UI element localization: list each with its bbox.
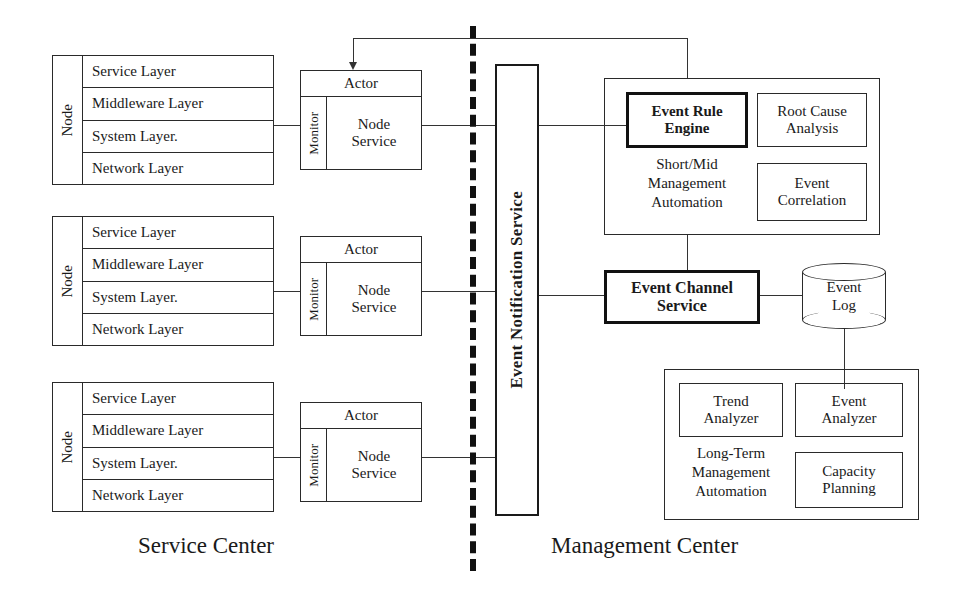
actor-block-1: Actor Monitor Node Service	[300, 70, 422, 170]
actor-block-2: Actor Monitor Node Service	[300, 236, 422, 336]
capacity-planning-box: Capacity Planning	[795, 452, 903, 508]
event-log-line1: Event	[827, 279, 862, 295]
event-correlation-box: Event Correlation	[757, 163, 867, 221]
diagram-canvas: Node Service Layer Middleware Layer Syst…	[0, 0, 961, 594]
connector-node1-actor1	[274, 125, 300, 126]
connector-eventchannel-eventlog	[760, 295, 802, 296]
event-log-line2: Log	[832, 297, 856, 313]
center-divider	[470, 26, 476, 571]
event-correlation-line2: Correlation	[778, 192, 846, 208]
short-mid-automation-line3: Automation	[651, 194, 723, 210]
node-service-line2: Service	[352, 299, 397, 315]
node-block-3: Node Service Layer Middleware Layer Syst…	[52, 382, 274, 512]
connector-container-eventruleengine	[604, 125, 626, 126]
node-layer-row: Service Layer	[83, 217, 273, 249]
root-cause-analysis-line2: Analysis	[786, 120, 839, 136]
connector-node3-actor3	[274, 457, 300, 458]
monitor-cell-3: Monitor	[301, 429, 327, 501]
node-layer-row: Middleware Layer	[83, 415, 273, 447]
event-rule-engine-line1: Event Rule	[651, 103, 722, 119]
connector-node2-actor2	[274, 291, 300, 292]
monitor-label-3: Monitor	[306, 444, 322, 487]
node-label-tab-3: Node	[53, 383, 83, 511]
root-cause-analysis-box: Root Cause Analysis	[757, 93, 867, 147]
node-service-cell-3: Node Service	[327, 429, 421, 501]
node-block-2: Node Service Layer Middleware Layer Syst…	[52, 216, 274, 346]
node-layer-row: System Layer.	[83, 121, 273, 153]
node-service-line1: Node	[358, 116, 391, 132]
node-service-line1: Node	[358, 448, 391, 464]
node-layer-row: Network Layer	[83, 480, 273, 511]
node-layer-row: Service Layer	[83, 56, 273, 88]
feedback-drop-right	[687, 38, 688, 78]
feedback-horizontal	[353, 38, 687, 39]
node-label-tab-2: Node	[53, 217, 83, 345]
short-mid-automation-line1: Short/Mid	[656, 156, 718, 172]
node-layer-row: Network Layer	[83, 153, 273, 184]
actor-header-3: Actor	[301, 403, 421, 429]
node-block-1: Node Service Layer Middleware Layer Syst…	[52, 55, 274, 185]
event-analyzer-line2: Analyzer	[822, 410, 877, 426]
connector-actor1-ens	[422, 125, 495, 126]
node-label-tab-1: Node	[53, 56, 83, 184]
node-service-cell-1: Node Service	[327, 97, 421, 169]
long-term-automation-line2: Management	[692, 464, 770, 480]
short-mid-automation-line2: Management	[648, 175, 726, 191]
trend-analyzer-box: Trend Analyzer	[679, 383, 783, 437]
node-layer-row: Service Layer	[83, 383, 273, 415]
event-channel-service-line1: Event Channel	[631, 279, 733, 296]
monitor-label-1: Monitor	[306, 112, 322, 155]
actor-block-3: Actor Monitor Node Service	[300, 402, 422, 502]
trend-analyzer-line1: Trend	[713, 393, 748, 409]
node-label-3: Node	[59, 431, 76, 464]
monitor-cell-1: Monitor	[301, 97, 327, 169]
connector-shortmid-eventchannel	[687, 235, 688, 270]
event-log-label: Event Log	[802, 263, 886, 329]
long-term-automation-line1: Long-Term	[697, 445, 765, 461]
connector-ens-shortmid	[539, 125, 604, 126]
trend-analyzer-line2: Analyzer	[704, 410, 759, 426]
node-label-1: Node	[59, 104, 76, 137]
connector-actor3-ens	[422, 457, 495, 458]
capacity-planning-line1: Capacity	[822, 463, 875, 479]
event-analyzer-line1: Event	[832, 393, 867, 409]
event-log-cylinder: Event Log	[802, 263, 886, 329]
event-rule-engine-box: Event Rule Engine	[626, 92, 748, 148]
node-service-line1: Node	[358, 282, 391, 298]
feedback-drop-actor	[353, 38, 354, 62]
actor-header-1: Actor	[301, 71, 421, 97]
node-service-line2: Service	[352, 465, 397, 481]
connector-ens-eventchannel	[539, 295, 604, 296]
long-term-automation-label: Long-Term Management Automation	[672, 444, 790, 502]
long-term-automation-line3: Automation	[695, 483, 767, 499]
event-notification-service-box: Event Notification Service	[495, 64, 539, 516]
event-analyzer-box: Event Analyzer	[795, 383, 903, 437]
node-label-2: Node	[59, 265, 76, 298]
short-mid-automation-label: Short/Mid Management Automation	[620, 155, 754, 213]
event-correlation-line1: Event	[794, 175, 829, 191]
event-notification-service-label: Event Notification Service	[507, 191, 527, 389]
node-layer-row: System Layer.	[83, 448, 273, 480]
capacity-planning-line2: Planning	[822, 480, 875, 496]
node-layer-row: Network Layer	[83, 314, 273, 345]
node-layer-row: Middleware Layer	[83, 249, 273, 281]
event-channel-service-line2: Service	[657, 297, 707, 314]
connector-actor2-ens	[422, 291, 495, 292]
node-service-line2: Service	[352, 133, 397, 149]
feedback-arrowhead-icon	[349, 62, 357, 70]
monitor-cell-2: Monitor	[301, 263, 327, 335]
node-layer-row: System Layer.	[83, 282, 273, 314]
monitor-label-2: Monitor	[306, 278, 322, 321]
event-rule-engine-line2: Engine	[664, 120, 709, 136]
service-center-caption: Service Center	[138, 533, 274, 559]
event-channel-service-box: Event Channel Service	[604, 270, 760, 324]
node-layer-row: Middleware Layer	[83, 88, 273, 120]
management-center-caption: Management Center	[551, 533, 738, 559]
node-service-cell-2: Node Service	[327, 263, 421, 335]
actor-header-2: Actor	[301, 237, 421, 263]
root-cause-analysis-line1: Root Cause	[777, 103, 847, 119]
